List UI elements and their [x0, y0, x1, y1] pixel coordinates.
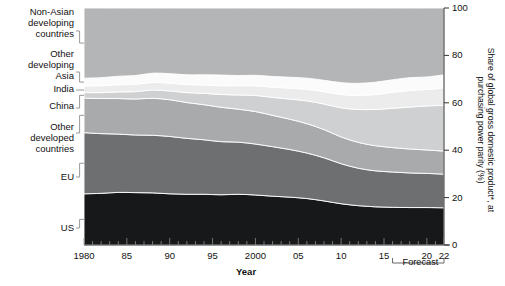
series-label-eu: EU: [2, 171, 74, 182]
x-axis-tick-2005: 05: [278, 250, 318, 261]
area-series-non-asian-developing-countries: [84, 8, 444, 83]
x-axis-tick-1985: 85: [107, 250, 147, 261]
y-axis-tick-40: 40: [452, 144, 463, 155]
y-axis-tick-80: 80: [452, 49, 463, 60]
y-axis-title: Share of global gross domestic product*,…: [476, 30, 496, 230]
x-axis-tick-2022: 22: [424, 250, 464, 261]
chart-figure: Non-Asian developing countries Other dev…: [0, 0, 505, 286]
x-axis-tick-1980: 1980: [64, 250, 104, 261]
series-label-china: China: [2, 100, 74, 111]
series-label-india: India: [2, 83, 74, 94]
y-axis-tick-100: 100: [452, 2, 468, 13]
y-axis-tick-0: 0: [452, 239, 457, 250]
series-label-other-developing-asia: Other developing Asia: [2, 48, 74, 81]
y-axis-tick-20: 20: [452, 192, 463, 203]
x-axis-title: Year: [236, 266, 256, 277]
x-axis-tick-1995: 95: [193, 250, 233, 261]
y-axis-tick-60: 60: [452, 97, 463, 108]
x-axis-tick-2000: 2000: [235, 250, 275, 261]
label-leader-lines: [76, 31, 84, 228]
stacked-area-chart: [0, 0, 505, 286]
series-label-other-developed-countries: Other developed countries: [2, 121, 74, 154]
area-layers: [84, 8, 444, 245]
series-label-us: US: [2, 222, 74, 233]
x-axis-tick-2015: 15: [364, 250, 404, 261]
x-axis-tick-2010: 10: [321, 250, 361, 261]
x-axis-tick-1990: 90: [150, 250, 190, 261]
series-label-non-asian-developing-countries: Non-Asian developing countries: [2, 6, 74, 39]
